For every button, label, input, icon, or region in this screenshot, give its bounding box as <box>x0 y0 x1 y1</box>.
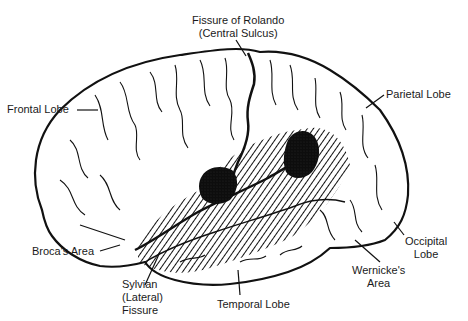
leader-broca <box>100 245 120 251</box>
label-occipital-line1: Occipital <box>405 235 447 248</box>
label-brocas-area: Broca's Area <box>32 245 94 258</box>
label-sylvian-line3: Fissure <box>122 304 163 317</box>
label-sylvian-fissure: Sylvian (Lateral) Fissure <box>122 278 163 317</box>
label-sylvian-line1: Sylvian <box>122 278 163 291</box>
label-wernickes-line1: Wernicke's <box>352 264 405 277</box>
label-occipital-lobe: Occipital Lobe <box>405 235 447 261</box>
label-temporal-lobe: Temporal Lobe <box>217 298 290 311</box>
label-rolando-line1: Fissure of Rolando <box>192 14 284 27</box>
label-wernickes-area: Wernicke's Area <box>352 264 405 290</box>
label-rolando-line2: (Central Sulcus) <box>192 27 284 40</box>
label-sylvian-line2: (Lateral) <box>122 291 163 304</box>
label-parietal-lobe: Parietal Lobe <box>386 88 451 101</box>
label-frontal-lobe: Frontal Lobe <box>7 103 69 116</box>
brocas-area-region <box>199 167 237 204</box>
label-wernickes-line2: Area <box>352 277 405 290</box>
label-occipital-line2: Lobe <box>405 248 447 261</box>
label-fissure-of-rolando: Fissure of Rolando (Central Sulcus) <box>192 14 284 40</box>
